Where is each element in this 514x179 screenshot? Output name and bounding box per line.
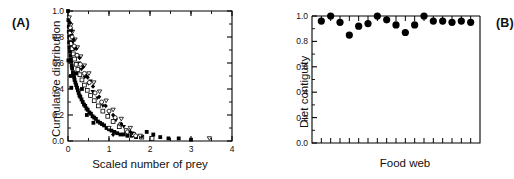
panel-a-ytick-0.2: 0.2 bbox=[32, 110, 64, 120]
data-point-open-circle bbox=[100, 100, 104, 104]
data-point-open-circle bbox=[78, 62, 82, 66]
panel-b-ytick-0.6: 0.6 bbox=[278, 62, 308, 72]
data-point-filled-square bbox=[92, 121, 96, 125]
data-point-filled-circle bbox=[467, 19, 474, 26]
data-point-filled-square bbox=[189, 138, 193, 142]
data-point-filled-circle bbox=[327, 12, 334, 19]
data-point-filled-circle bbox=[383, 16, 390, 23]
panel-b-tick-marks bbox=[312, 16, 471, 143]
data-point-filled-circle bbox=[411, 21, 418, 28]
series-open-square bbox=[68, 31, 154, 140]
panel-a-ytick-0.6: 0.6 bbox=[32, 58, 64, 68]
data-point-open-square bbox=[106, 114, 110, 118]
data-point-open-circle bbox=[87, 81, 91, 85]
data-point-open-square bbox=[101, 109, 105, 113]
panel-b-ytick-0.0: 0.0 bbox=[278, 138, 308, 148]
data-point-filled-diamond bbox=[91, 84, 95, 89]
data-point-filled-diamond bbox=[104, 104, 108, 109]
data-point-filled-circle bbox=[458, 17, 465, 24]
panel-a-xtick-2: 2 bbox=[140, 144, 160, 154]
data-point-open-circle bbox=[107, 109, 111, 113]
data-point-filled-circle bbox=[392, 21, 399, 28]
panel-a-data-points bbox=[66, 9, 212, 142]
data-point-filled-circle bbox=[420, 12, 427, 19]
data-point-filled-square bbox=[69, 74, 73, 78]
data-point-filled-circle bbox=[318, 17, 325, 24]
data-point-open-circle bbox=[75, 53, 79, 57]
data-point-filled-circle bbox=[402, 29, 409, 36]
data-point-filled-circle bbox=[439, 17, 446, 24]
data-point-filled-square bbox=[85, 113, 89, 117]
panel-a-ytick-0.8: 0.8 bbox=[32, 32, 64, 42]
panel-b-ytick-1.0: 1.0 bbox=[278, 11, 308, 21]
data-point-open-square bbox=[83, 83, 87, 87]
panel-b-label: (B) bbox=[496, 16, 514, 30]
data-point-open-square bbox=[85, 88, 89, 92]
data-point-open-square bbox=[92, 99, 96, 103]
data-point-open-square bbox=[89, 94, 93, 98]
data-point-open-triangle-down bbox=[207, 137, 211, 141]
panel-a-xtick-1: 1 bbox=[99, 144, 119, 154]
data-point-filled-square bbox=[70, 66, 74, 70]
data-point-open-triangle-down bbox=[104, 99, 108, 103]
panel-b: (B) Diet contiguity Food web 0.00.20.40.… bbox=[250, 0, 503, 179]
data-point-filled-circle bbox=[430, 17, 437, 24]
data-point-filled-square bbox=[158, 135, 162, 139]
data-point-filled-square bbox=[126, 134, 130, 138]
data-point-filled-circle bbox=[355, 23, 362, 30]
data-point-filled-square bbox=[115, 131, 119, 135]
data-point-open-triangle-down bbox=[97, 90, 101, 94]
data-point-filled-circle bbox=[346, 31, 353, 38]
data-point-open-triangle-down bbox=[92, 81, 96, 85]
data-point-open-square bbox=[78, 73, 82, 77]
data-point-filled-square bbox=[80, 87, 84, 91]
panel-a-xtick-4: 4 bbox=[222, 144, 242, 154]
panel-b-axes bbox=[312, 16, 480, 143]
series-open-circle bbox=[68, 26, 137, 138]
data-point-filled-square bbox=[122, 133, 126, 137]
data-point-open-triangle-down bbox=[128, 126, 132, 130]
data-point-open-square bbox=[80, 78, 84, 82]
data-point-filled-square bbox=[66, 9, 70, 13]
series-filled-triangle-down bbox=[67, 22, 144, 139]
data-point-open-circle bbox=[134, 134, 138, 138]
panel-a-label: (A) bbox=[12, 16, 30, 30]
data-point-filled-circle bbox=[336, 19, 343, 26]
data-point-filled-square bbox=[151, 133, 155, 137]
data-point-open-square bbox=[150, 137, 154, 141]
data-point-filled-square bbox=[167, 137, 171, 141]
panel-b-ytick-0.8: 0.8 bbox=[278, 36, 308, 46]
data-point-filled-square bbox=[145, 130, 149, 134]
data-point-filled-circle bbox=[364, 20, 371, 27]
panel-b-ytick-0.2: 0.2 bbox=[278, 113, 308, 123]
data-point-open-square bbox=[76, 68, 80, 72]
panel-a-x-axis-label: Scaled number of prey bbox=[55, 158, 245, 170]
data-point-filled-square bbox=[69, 86, 73, 90]
data-point-open-triangle-down bbox=[119, 117, 123, 121]
panel-a-ytick-1.0: 1.0 bbox=[32, 6, 64, 16]
panel-b-x-axis-label: Food web bbox=[310, 157, 500, 169]
data-point-filled-square bbox=[177, 137, 181, 141]
panel-a-xtick-0: 0 bbox=[58, 144, 78, 154]
data-point-open-square bbox=[96, 104, 100, 108]
panel-a-ytick-0.4: 0.4 bbox=[32, 84, 64, 94]
data-point-open-square bbox=[74, 62, 78, 66]
panel-b-frame bbox=[312, 16, 480, 143]
panel-a-xtick-3: 3 bbox=[181, 144, 201, 154]
data-point-filled-circle bbox=[448, 19, 455, 26]
data-point-open-circle bbox=[93, 91, 97, 95]
data-point-filled-square bbox=[74, 72, 78, 76]
data-point-filled-square bbox=[119, 133, 123, 137]
data-point-open-square bbox=[111, 120, 115, 124]
data-point-filled-circle bbox=[374, 12, 381, 19]
panel-b-ytick-0.4: 0.4 bbox=[278, 87, 308, 97]
panel-a: (A) Cumulative distribution Scaled numbe… bbox=[0, 0, 252, 179]
data-point-open-square bbox=[73, 57, 77, 61]
data-point-open-triangle-down bbox=[111, 108, 115, 112]
